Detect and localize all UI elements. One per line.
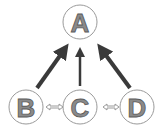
node-d: D [120,90,154,124]
node-b-label: B [17,93,36,123]
node-d-label: D [128,93,147,123]
edge-d-to-a [102,50,130,88]
node-a: A [63,5,97,39]
diagram-canvas: A B C D [0,0,166,133]
node-b: B [9,90,43,124]
node-a-label: A [71,8,90,38]
node-c-label: C [71,93,90,123]
edge-c-d-bidirectional [103,104,119,110]
edge-b-c-bidirectional [46,104,63,110]
edge-b-to-a [37,50,64,88]
node-c: C [63,90,97,124]
